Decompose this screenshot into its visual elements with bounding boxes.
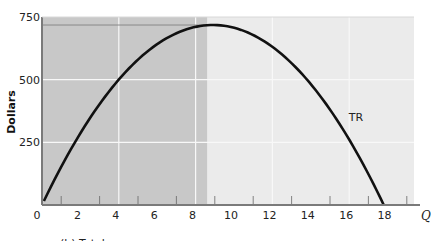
x-tick-label: 12 [262,209,276,222]
y-tick-label: 250 [19,136,40,149]
y-tick-labels: 250500750 [19,11,40,149]
y-tick-label: 750 [19,11,40,24]
x-tick-label: 8 [189,209,196,222]
x-tick-label: 14 [301,209,315,222]
tr-series-label: TR [348,111,364,124]
x-tick-label: 2 [74,209,81,222]
shaded-region [42,17,207,205]
x-tick-labels: 024681012141618 [34,209,392,222]
x-tick-label: 18 [378,209,392,222]
x-tick-label: 10 [224,209,238,222]
x-tick-label: 4 [112,209,119,222]
x-axis-title: Q [421,209,431,223]
x-tick-label: 16 [339,209,353,222]
total-revenue-chart: 024681012141618 250500750 Dollars Q TR (… [0,0,431,241]
figure-caption: (b) Total [60,237,105,241]
y-axis-title: Dollars [5,90,18,134]
x-tick-label: 6 [151,209,158,222]
y-tick-label: 500 [19,74,40,87]
x-tick-label: 0 [34,209,41,222]
